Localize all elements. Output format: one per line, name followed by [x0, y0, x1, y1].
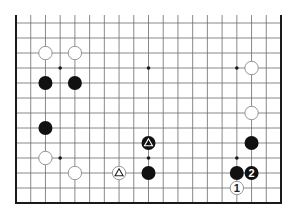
white-stone	[39, 46, 52, 59]
go-board-diagram: 21	[0, 0, 290, 214]
white-stone	[39, 151, 52, 164]
star-point	[147, 156, 151, 160]
move-number: 1	[234, 182, 240, 194]
black-stone	[38, 76, 52, 90]
white-stone-icon	[245, 106, 258, 119]
white-stone-icon	[68, 166, 81, 179]
white-stone-icon	[245, 61, 258, 74]
black-stone	[142, 136, 156, 150]
white-stone	[112, 166, 125, 179]
white-stone-icon	[39, 46, 52, 59]
star-point	[58, 66, 62, 70]
star-point	[235, 156, 239, 160]
white-stone	[245, 61, 258, 74]
black-stone	[230, 166, 244, 180]
star-point	[235, 66, 239, 70]
white-stone: 1	[230, 181, 243, 194]
black-stone-icon	[38, 121, 52, 135]
star-point	[147, 66, 151, 70]
black-stone	[245, 136, 259, 150]
white-stone	[245, 106, 258, 119]
black-stone	[68, 76, 82, 90]
black-stone-icon	[230, 166, 244, 180]
black-stone-icon	[245, 136, 259, 150]
black-stone-icon	[68, 76, 82, 90]
white-stone-icon	[68, 46, 81, 59]
white-stone	[68, 166, 81, 179]
black-stone: 2	[245, 166, 259, 180]
white-stone-icon	[39, 151, 52, 164]
black-stone-icon	[142, 166, 156, 180]
black-stone-icon	[38, 76, 52, 90]
star-point	[58, 156, 62, 160]
move-number: 2	[248, 167, 254, 179]
black-stone	[142, 166, 156, 180]
black-stone	[38, 121, 52, 135]
white-stone	[68, 46, 81, 59]
